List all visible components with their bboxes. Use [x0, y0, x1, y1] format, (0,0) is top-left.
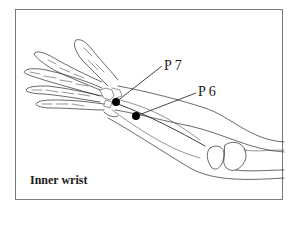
p6-point-marker: [132, 112, 140, 120]
p6-label: P 6: [198, 84, 216, 100]
p7-label: P 7: [164, 58, 182, 74]
p7-point-marker: [112, 98, 120, 106]
figure-caption: Inner wrist: [30, 173, 87, 188]
p7-leader-line: [116, 66, 162, 102]
